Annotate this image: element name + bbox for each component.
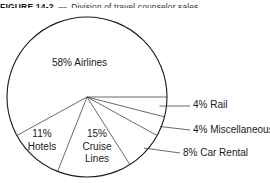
slice-label-miscellaneous: 4% Miscellaneous: [193, 124, 270, 137]
slice-label-cruise-name-line2: Lines: [72, 153, 122, 166]
slice-label-hotels-name: Hotels: [18, 141, 66, 154]
leader-line-miscellaneous: [160, 127, 190, 131]
slice-label-airlines: 58% Airlines: [52, 57, 107, 70]
slice-label-cruise-percent: 15%: [72, 128, 122, 141]
leader-line-car-rental: [144, 148, 180, 153]
figure-container: FIGURE 14-2 — Division of travel counsel…: [0, 0, 270, 183]
slice-label-hotels-percent: 11%: [18, 128, 66, 141]
slice-label-hotels: 11% Hotels: [18, 128, 66, 153]
slice-label-cruise-name-line1: Cruise: [72, 141, 122, 154]
slice-label-cruise-lines: 15% Cruise Lines: [72, 128, 122, 166]
slice-label-car-rental: 8% Car Rental: [183, 147, 248, 160]
slice-label-rail: 4% Rail: [193, 99, 227, 112]
